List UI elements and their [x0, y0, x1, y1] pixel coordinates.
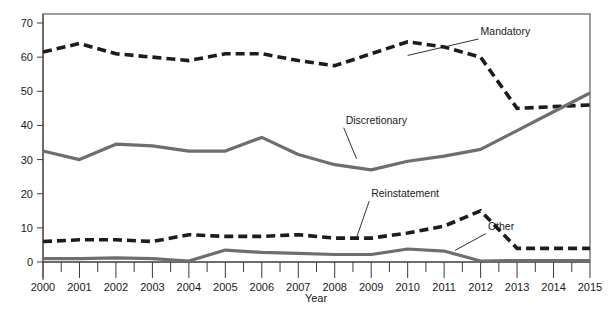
- x-tick-label: 2015: [578, 281, 602, 293]
- x-tick-label: 2001: [67, 281, 91, 293]
- y-tick-label: 60: [21, 51, 33, 63]
- y-tick-label: 30: [21, 154, 33, 166]
- y-tick-label: 0: [27, 256, 33, 268]
- y-tick-label: 70: [21, 17, 33, 29]
- series-label-other: Other: [488, 220, 515, 232]
- x-tick-label: 2004: [177, 281, 201, 293]
- x-axis-title: Year: [305, 292, 328, 304]
- y-axis: 010203040506070: [21, 14, 43, 280]
- x-tick-label: 2005: [213, 281, 237, 293]
- chart-canvas: 010203040506070 200020012002200320042005…: [0, 0, 615, 318]
- x-tick-label: 2009: [359, 281, 383, 293]
- series-label-discretionary: Discretionary: [346, 114, 408, 126]
- x-axis: 2000200120022003200420052006200720082009…: [31, 262, 602, 293]
- y-tick-label: 10: [21, 222, 33, 234]
- x-tick-label: 2003: [140, 281, 164, 293]
- x-tick-label: 2010: [395, 281, 419, 293]
- series-label-mandatory: Mandatory: [481, 25, 531, 37]
- line-chart: 010203040506070 200020012002200320042005…: [0, 0, 615, 318]
- y-tick-label: 20: [21, 188, 33, 200]
- x-tick-label: 2011: [432, 281, 456, 293]
- series-label-reinstatement: Reinstatement: [371, 187, 439, 199]
- x-tick-label: 2013: [505, 281, 529, 293]
- x-tick-label: 2000: [31, 281, 55, 293]
- x-tick-label: 2014: [541, 281, 565, 293]
- x-tick-label: 2006: [250, 281, 274, 293]
- y-tick-label: 40: [21, 119, 33, 131]
- x-tick-label: 2002: [104, 281, 128, 293]
- x-tick-label: 2012: [468, 281, 492, 293]
- y-tick-label: 50: [21, 85, 33, 97]
